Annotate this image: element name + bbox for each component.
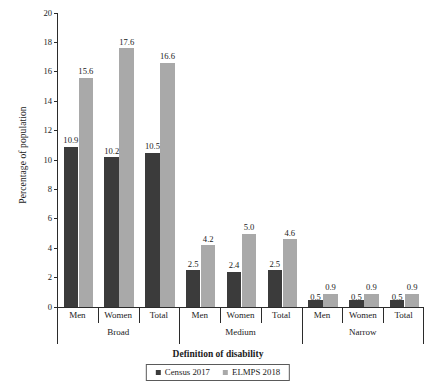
category-axis: MenWomenTotalMenWomenTotalMenWomenTotal [57, 308, 424, 328]
group-separator [302, 308, 303, 344]
bar-census: 2.5 [186, 270, 201, 307]
bar-elmps: 5.0 [242, 234, 257, 308]
legend-swatch-elmps-icon [223, 370, 228, 375]
bar-value-label: 15.6 [78, 66, 93, 76]
category-label: Total [150, 310, 168, 320]
y-tick-label: 6 [48, 212, 52, 224]
chart-legend: Census 2017 ELMPS 2018 [146, 364, 290, 381]
category-separator [383, 308, 384, 323]
bar-value-label: 0.5 [351, 292, 362, 302]
bar-census: 2.5 [268, 270, 283, 307]
y-tick-label: 12 [43, 124, 52, 136]
bar-elmps: 17.6 [119, 48, 134, 307]
bar-elmps: 16.6 [160, 63, 175, 307]
category-separator [261, 308, 262, 323]
bar-elmps: 4.2 [201, 245, 216, 307]
bar-value-label: 10.2 [104, 146, 119, 156]
bar-census: 0.5 [390, 300, 405, 307]
y-tick-label: 0 [48, 301, 52, 313]
bar-value-label: 0.9 [325, 282, 336, 292]
bar-census: 0.5 [349, 300, 364, 307]
bar-value-label: 0.5 [310, 292, 321, 302]
bar-elmps: 0.9 [323, 294, 338, 307]
bar-chart: Percentage of population 024681012141618… [0, 0, 436, 386]
category-label: Total [272, 310, 290, 320]
y-tick-label: 18 [43, 36, 52, 48]
category-label: Women [104, 310, 132, 320]
legend-label: Census 2017 [165, 367, 210, 377]
bar-census: 10.9 [64, 147, 79, 307]
category-label: Men [69, 310, 86, 320]
bar-census: 10.5 [145, 153, 160, 307]
legend-swatch-census-icon [156, 370, 161, 375]
category-label: Men [314, 310, 331, 320]
category-separator [220, 308, 221, 323]
bar-value-label: 2.5 [269, 259, 280, 269]
bar-value-label: 4.6 [284, 228, 295, 238]
y-tick-label: 16 [43, 65, 52, 77]
legend-label: ELMPS 2018 [232, 367, 280, 377]
y-axis-title: Percentage of population [18, 80, 28, 230]
category-label: Women [227, 310, 255, 320]
bar-elmps: 15.6 [79, 78, 94, 307]
y-tick-label: 4 [48, 242, 52, 254]
legend-item: ELMPS 2018 [223, 367, 280, 377]
bar-value-label: 4.2 [203, 234, 214, 244]
category-separator [342, 308, 343, 323]
category-separator [139, 308, 140, 323]
y-tick-label: 20 [43, 7, 52, 19]
y-tick-label: 2 [48, 271, 52, 283]
bar-census: 0.5 [308, 300, 323, 307]
bar-value-label: 16.6 [160, 51, 175, 61]
group-separator [179, 308, 180, 344]
bar-value-label: 10.9 [63, 135, 78, 145]
bar-census: 2.4 [227, 272, 242, 307]
plot-area: 02468101214161820 10.915.610.217.610.516… [57, 14, 424, 308]
group-label: Narrow [349, 327, 377, 337]
category-separator [98, 308, 99, 323]
bar-elmps: 0.9 [405, 294, 420, 307]
category-label: Men [191, 310, 208, 320]
category-label: Total [394, 310, 412, 320]
group-separator [423, 308, 424, 344]
bar-value-label: 0.9 [366, 282, 377, 292]
y-tick-label: 14 [43, 95, 52, 107]
bar-elmps: 4.6 [283, 239, 298, 307]
group-label: Medium [225, 327, 256, 337]
bar-value-label: 0.9 [407, 282, 418, 292]
bar-value-label: 5.0 [244, 222, 255, 232]
group-label: Broad [107, 327, 129, 337]
bar-census: 10.2 [104, 157, 119, 307]
bar-value-label: 17.6 [119, 37, 134, 47]
bar-value-label: 10.5 [145, 141, 160, 151]
group-separator [57, 308, 58, 344]
bar-series-container: 10.915.610.217.610.516.62.54.22.45.02.54… [58, 14, 424, 307]
bar-elmps: 0.9 [364, 294, 379, 307]
bar-value-label: 2.4 [229, 260, 240, 270]
category-label: Women [349, 310, 377, 320]
bar-value-label: 0.5 [392, 292, 403, 302]
x-axis-title: Definition of disability [0, 349, 436, 359]
y-tick-label: 10 [43, 154, 52, 166]
bar-value-label: 2.5 [188, 259, 199, 269]
y-tick-label: 8 [48, 183, 52, 195]
legend-item: Census 2017 [156, 367, 210, 377]
